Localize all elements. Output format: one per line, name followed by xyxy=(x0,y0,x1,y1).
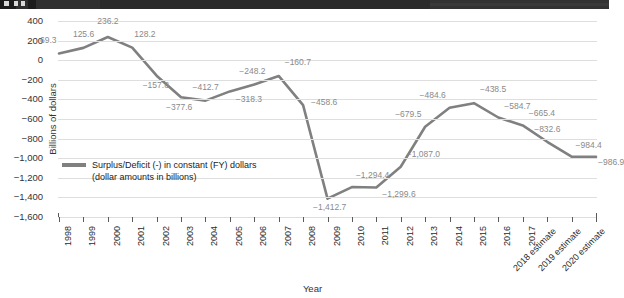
plot-area: Billions of dollars 4002000−200−400−600−… xyxy=(58,21,597,217)
x-axis-tick-label: 2010 xyxy=(356,226,366,246)
x-axis-tick xyxy=(401,217,402,222)
chart-figure: Billions of dollars 4002000−200−400−600−… xyxy=(0,9,609,298)
data-point-label: −1,087.0 xyxy=(407,150,440,159)
x-axis-tick xyxy=(83,217,84,222)
y-axis-tick-label: −1,000 xyxy=(0,153,43,162)
x-axis-tick xyxy=(376,217,377,222)
x-axis-title-text: Year xyxy=(303,283,322,294)
data-point-label: −1,299.6 xyxy=(382,190,415,199)
x-axis-tick xyxy=(254,217,255,222)
y-axis-title: Billions of dollars xyxy=(47,83,58,154)
x-axis-tick-label: 2000 xyxy=(112,226,122,246)
x-axis-tick xyxy=(230,217,231,222)
gridline xyxy=(58,21,597,22)
y-axis-tick-label: −1,600 xyxy=(0,212,43,221)
data-point-label: 236.2 xyxy=(97,17,118,26)
x-axis-tick-label: 2015 xyxy=(478,226,488,246)
gridline xyxy=(58,41,597,42)
x-axis-tick-label: 2014 xyxy=(454,226,464,246)
data-point-label: −377.6 xyxy=(166,103,192,112)
data-point-label: −984.4 xyxy=(576,141,602,150)
y-axis-tick-label: −400 xyxy=(0,94,43,103)
data-point-label: −318.3 xyxy=(236,95,262,104)
x-axis-tick xyxy=(303,217,304,222)
data-point-label: −1,294.4 xyxy=(356,171,389,180)
x-axis-tick-label: 2001 xyxy=(136,226,146,246)
x-axis-tick-label: 1998 xyxy=(63,226,73,246)
x-axis-tick xyxy=(596,217,597,222)
y-axis-tick-label: 200 xyxy=(0,36,43,45)
x-axis-title: Year xyxy=(0,283,609,294)
data-point-label: −458.6 xyxy=(311,98,337,107)
gridline xyxy=(58,139,597,140)
y-axis-tick-label: 0 xyxy=(0,55,43,64)
legend-color-swatch xyxy=(62,163,86,167)
data-point-label: −248.2 xyxy=(239,67,265,76)
data-point-label: −438.5 xyxy=(480,85,506,94)
x-axis-tick-label: 2003 xyxy=(185,226,195,246)
gridline xyxy=(58,197,597,198)
x-axis-tick xyxy=(181,217,182,222)
x-axis-tick xyxy=(59,217,60,222)
x-axis-tick xyxy=(352,217,353,222)
x-axis-tick-label: 2007 xyxy=(283,226,293,246)
x-axis-tick xyxy=(279,217,280,222)
data-point-label: 69.3 xyxy=(40,36,57,45)
y-axis-tick-label: −200 xyxy=(0,75,43,84)
app-chrome-bar xyxy=(0,0,609,9)
x-axis-tick xyxy=(108,217,109,222)
chrome-dot-1 xyxy=(4,1,9,6)
chrome-dot-2 xyxy=(14,1,18,6)
x-axis-tick xyxy=(425,217,426,222)
data-point-label: 128.2 xyxy=(134,30,155,39)
y-axis-tick-label: −1,200 xyxy=(0,173,43,182)
x-axis-tick xyxy=(474,217,475,222)
y-axis-tick-label: −600 xyxy=(0,114,43,123)
x-axis-tick xyxy=(328,217,329,222)
chart-legend: Surplus/Deficit (-) in constant (FY) dol… xyxy=(62,159,257,183)
x-axis-tick xyxy=(157,217,158,222)
x-axis-tick-label: 2013 xyxy=(429,226,439,246)
y-axis-tick-label: 400 xyxy=(0,16,43,25)
gridline xyxy=(58,60,597,61)
x-axis-tick-label: 2004 xyxy=(209,226,219,246)
x-axis-tick-label: 2011 xyxy=(380,226,390,245)
data-point-label: −584.7 xyxy=(504,102,530,111)
x-axis-tick xyxy=(572,217,573,222)
x-axis-tick xyxy=(132,217,133,222)
legend-label: Surplus/Deficit (-) in constant (FY) dol… xyxy=(92,159,257,183)
y-axis-tick-label: −800 xyxy=(0,134,43,143)
x-axis-tick xyxy=(450,217,451,222)
x-axis-tick xyxy=(523,217,524,222)
chrome-segment-right xyxy=(430,3,609,6)
data-point-label: 125.6 xyxy=(73,30,94,39)
x-axis-tick xyxy=(205,217,206,222)
x-axis-tick-label: 2006 xyxy=(258,226,268,246)
legend-label-line1: Surplus/Deficit (-) in constant (FY) dol… xyxy=(92,159,257,171)
data-point-label: −160.7 xyxy=(285,58,311,67)
data-point-label: −679.5 xyxy=(395,110,421,119)
x-axis-tick-label: 2009 xyxy=(332,226,342,246)
x-axis-tick-label: 2002 xyxy=(161,226,171,246)
y-axis-tick-label: −1,400 xyxy=(0,192,43,201)
x-axis-tick-label: 2005 xyxy=(234,226,244,246)
x-axis-tick-label: 2012 xyxy=(405,226,415,246)
chrome-segment-mid xyxy=(28,0,36,9)
gridline xyxy=(58,80,597,81)
gridline xyxy=(58,119,597,120)
data-point-label: −412.7 xyxy=(192,83,218,92)
data-point-label: −1,412.7 xyxy=(313,203,346,212)
data-point-label: −986.9 xyxy=(598,158,624,167)
data-point-label: −665.4 xyxy=(529,109,555,118)
x-axis-tick xyxy=(547,217,548,222)
legend-label-line2: (dollar amounts in billions) xyxy=(92,171,257,183)
data-point-label: −484.6 xyxy=(420,91,446,100)
data-point-label: −832.6 xyxy=(534,125,560,134)
x-axis-tick-label: 2008 xyxy=(307,226,317,246)
x-axis-tick-label: 2016 xyxy=(502,226,512,246)
data-point-label: −157.8 xyxy=(143,81,169,90)
x-axis-tick-label: 1999 xyxy=(87,226,97,246)
x-axis-tick xyxy=(498,217,499,222)
chrome-dot-3 xyxy=(21,1,25,6)
